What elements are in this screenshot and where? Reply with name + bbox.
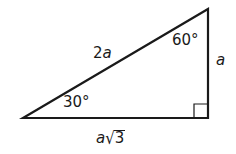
triangle: [23, 9, 208, 118]
vertical-side-label: a: [216, 53, 225, 68]
hypotenuse-coefficient: 2: [93, 44, 103, 62]
right-angle-marker: [194, 104, 208, 118]
angle-60-label: 60°: [172, 33, 199, 48]
angle-30-label: 30°: [63, 95, 90, 110]
radicand: 3: [114, 130, 126, 147]
hypotenuse-label: 2a: [93, 46, 112, 61]
base-coefficient: a: [96, 129, 105, 147]
hypotenuse-variable: a: [103, 44, 112, 62]
radical-sign-icon: √: [105, 130, 115, 147]
square-root: √3: [105, 130, 125, 147]
base-side-label: a√3: [96, 130, 125, 147]
